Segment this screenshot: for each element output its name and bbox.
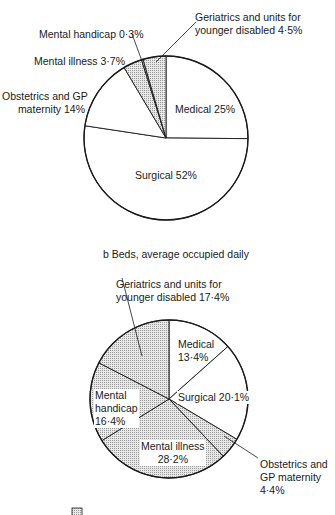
pie-slice-medical <box>166 56 248 139</box>
label-b-mental-illness: Mental illness 28·2% <box>140 440 206 466</box>
label-a-mental-handicap: Mental handicap 0·3% <box>39 28 143 41</box>
label-a-geriatrics: Geriatrics and units for younger disable… <box>195 11 302 37</box>
label-a-surgical: Surgical 52% <box>135 169 197 182</box>
label-b-surgical: Surgical 20·1% <box>177 391 250 404</box>
chart-b-title: b Beds, average occupied daily <box>103 248 249 261</box>
label-a-mental-illness: Mental illness 3·7% <box>34 55 125 68</box>
label-b-geriatrics: Geriatrics and units for younger disable… <box>116 278 229 304</box>
label-a-medical: Medical 25% <box>175 103 235 116</box>
label-b-mental-handicap: Mental handicap 16·4% <box>94 389 139 428</box>
label-a-obstetrics: Obstetrics and GP maternity 14% <box>2 90 85 116</box>
label-b-obstetrics: Obstetrics and GP maternity 4·4% <box>260 458 328 497</box>
label-b-medical: Medical 13·4% <box>178 338 214 364</box>
legend-shaded-swatch <box>72 508 82 515</box>
pie-chart-a <box>84 56 248 220</box>
